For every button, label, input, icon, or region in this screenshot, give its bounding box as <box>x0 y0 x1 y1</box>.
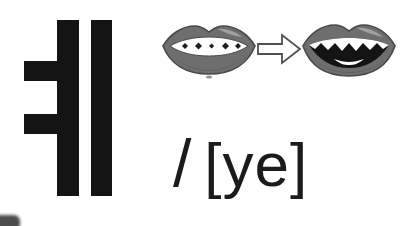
hangul-stroke-horizontal-lower <box>24 114 60 134</box>
hangul-stroke-horizontal-upper <box>24 61 60 81</box>
mouth-open-icon <box>300 16 398 82</box>
mouth-closed-icon <box>160 16 258 82</box>
cropped-corner-mark <box>0 215 20 226</box>
hangul-stroke-vertical-primary <box>57 20 79 196</box>
mouth-articulation-diagram <box>160 16 398 84</box>
slash-mark: / <box>173 130 204 196</box>
right-arrow-icon <box>256 32 302 66</box>
phonetic-value: [ye] <box>204 134 308 196</box>
hangul-stroke-vertical-secondary <box>91 20 112 196</box>
phonetic-transcription: / [ye] <box>173 119 393 211</box>
hangul-letter-ye <box>0 0 150 226</box>
pronunciation-card: / [ye] <box>0 0 403 226</box>
